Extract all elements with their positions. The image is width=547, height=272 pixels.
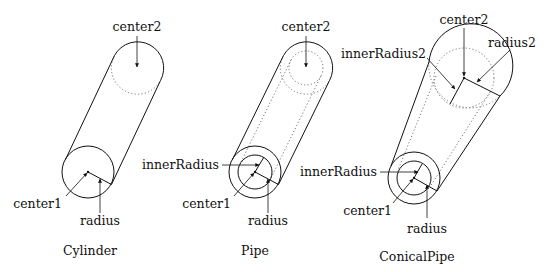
conicalpipe-right-side	[437, 96, 500, 191]
conicalpipe-radius-lines	[414, 164, 437, 191]
conicalpipe-center1-label: center1	[343, 203, 392, 218]
conicalpipe-left-side	[391, 62, 429, 166]
pipe-innerradius-label: innerRadius	[142, 157, 219, 172]
conicalpipe-inner-left-side	[398, 76, 436, 170]
conicalpipe-center2-dot	[463, 77, 465, 79]
pipe-radius-lines	[255, 157, 279, 185]
diagram-canvas: center2 center1 radius Cylinder center2 …	[0, 0, 547, 272]
pipe-center1-label: center1	[182, 196, 231, 211]
cylinder-caption: Cylinder	[63, 243, 117, 258]
pipe-radius-label: radius	[248, 213, 288, 228]
cylinder-center1-leader	[66, 173, 87, 196]
conicalpipe-radius2-label: radius2	[488, 35, 536, 50]
conicalpipe-radius2-lines	[450, 78, 500, 104]
pipe-caption: Pipe	[241, 243, 269, 258]
cylinder-center1-label: center1	[13, 196, 62, 211]
conicalpipe-innerradius2-leader	[427, 58, 455, 89]
conicalpipe-innerradius2-label: innerRadius2	[341, 46, 426, 61]
conicalpipe-figure: center2 innerRadius2 radius2 innerRadius…	[300, 12, 536, 264]
pipe-figure: center2 innerRadius center1 radius Pipe	[142, 19, 333, 258]
conicalpipe-center1-leader	[393, 179, 413, 203]
cylinder-center2-label: center2	[113, 19, 162, 34]
cylinder-top-arc	[115, 42, 164, 81]
conicalpipe-top-hidden-arc	[429, 62, 500, 108]
conicalpipe-center1-dot	[413, 177, 415, 179]
pipe-center1-leader	[234, 173, 254, 196]
conicalpipe-radius-label: radius	[407, 221, 447, 236]
conicalpipe-center2-label: center2	[440, 12, 489, 27]
conicalpipe-innerradius-label: innerRadius	[300, 164, 377, 179]
cylinder-top-hidden-arc	[111, 56, 160, 95]
cylinder-figure: center2 center1 radius Cylinder	[13, 19, 163, 258]
cylinder-left-side	[66, 56, 115, 160]
cylinder-center1-dot	[87, 171, 89, 173]
pipe-center1-dot	[254, 171, 256, 173]
pipe-left-side	[233, 56, 284, 160]
cylinder-radius-label: radius	[80, 213, 120, 228]
conicalpipe-caption: ConicalPipe	[379, 249, 454, 264]
pipe-center2-label: center2	[282, 19, 331, 34]
